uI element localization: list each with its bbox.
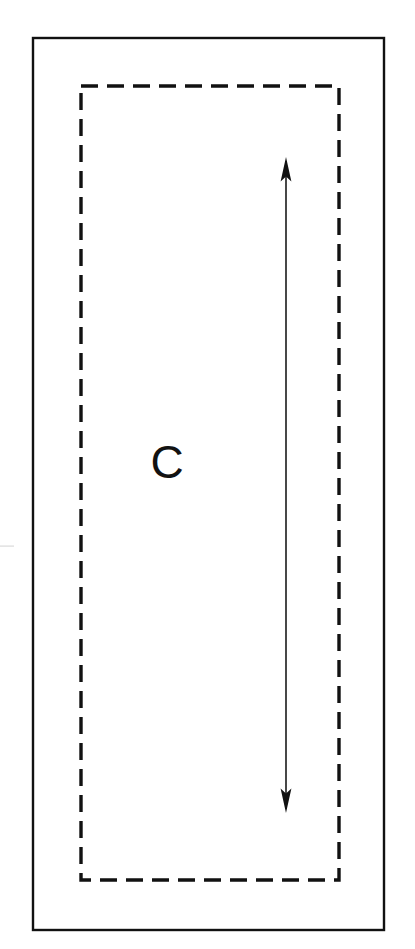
scan-line-artifact xyxy=(0,546,14,547)
figure-canvas: C xyxy=(0,0,415,949)
region-label-c: C xyxy=(150,436,183,488)
figure-svg: C xyxy=(0,0,415,949)
page-background xyxy=(0,0,415,949)
